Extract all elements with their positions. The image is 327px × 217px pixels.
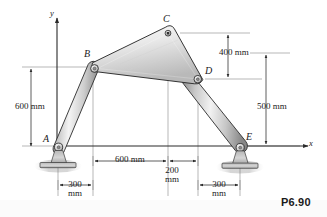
dimension-label-300-right-unit: mm (204, 189, 234, 198)
dimension-label-500: 500 mm (244, 102, 300, 111)
figure-lower-band (0, 200, 327, 217)
dimension-label-300-right: 300 mm (204, 180, 234, 199)
x-axis-label: x (309, 139, 313, 148)
joint-label-c: C (163, 14, 170, 25)
joint-c (165, 30, 171, 36)
joint-e (236, 144, 244, 152)
joint-label-b: B (84, 49, 90, 60)
dimension-label-300-left-unit: mm (60, 189, 90, 198)
dimension-label-400: 400 mm (206, 48, 262, 57)
dimension-label-200-unit: mm (157, 175, 187, 184)
dimension-label-600-vertical: 600 mm (2, 102, 58, 111)
joint-label-d: D (205, 66, 212, 77)
joint-b (91, 65, 99, 73)
y-axis-label: y (50, 9, 54, 18)
problem-number: P6.90 (281, 197, 311, 209)
dimension-label-600-horizontal: 600 mm (102, 155, 158, 164)
joint-label-a: A (43, 134, 49, 145)
joint-a (55, 143, 63, 151)
dimension-label-200: 200 mm (157, 166, 187, 185)
joint-label-e: E (246, 132, 252, 143)
dimension-label-300-left: 300 mm (60, 180, 90, 199)
joint-d (194, 75, 202, 83)
